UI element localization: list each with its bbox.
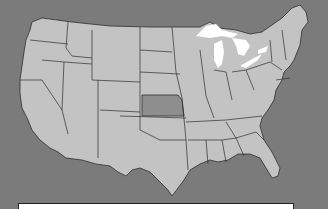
us-map-svg	[0, 0, 328, 209]
us-map	[0, 0, 328, 209]
caption-box	[18, 203, 294, 209]
state-kansas[interactable]	[142, 95, 184, 116]
